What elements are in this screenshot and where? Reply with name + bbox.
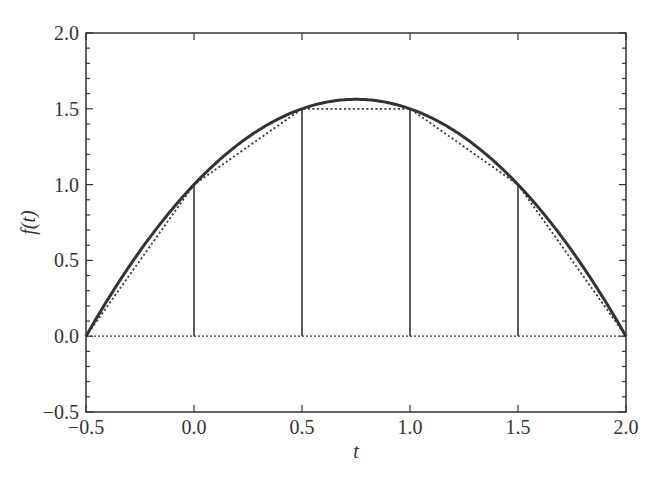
x-tick-label: 0.0 [182,416,207,438]
x-tick-label: 1.5 [506,416,531,438]
interpolation-dotted-line [86,109,626,336]
y-tick-label: 1.5 [54,98,79,120]
x-tick-label: 2.0 [614,416,639,438]
function-curve [86,99,626,336]
x-tick-label: 0.5 [290,416,315,438]
chart: −0.50.00.51.01.52.0−0.50.00.51.01.52.0tf… [0,0,657,479]
x-tick-label: 1.0 [398,416,423,438]
y-tick-label: 0.5 [54,249,79,271]
y-axis-label: f(t) [17,210,40,235]
y-tick-label: 2.0 [54,22,79,44]
y-tick-label: 0.0 [54,325,79,347]
y-tick-label: 1.0 [54,174,79,196]
x-axis-label: t [353,440,359,462]
y-tick-label: −0.5 [43,401,79,423]
